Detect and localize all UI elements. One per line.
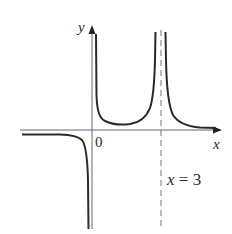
function-graph: y x 0 x = 3 xyxy=(0,0,232,234)
y-axis-label: y xyxy=(78,20,85,35)
y-axis xyxy=(89,25,96,229)
curve-middle-branch xyxy=(96,32,156,124)
curve-left-branch xyxy=(22,135,89,230)
curve-right-branch xyxy=(166,32,217,128)
origin-label: 0 xyxy=(95,135,103,150)
y-axis-arrow-icon xyxy=(89,25,96,34)
asymptote-label: x = 3 xyxy=(167,171,201,188)
x-axis xyxy=(20,127,222,134)
x-axis-label: x xyxy=(213,137,220,152)
